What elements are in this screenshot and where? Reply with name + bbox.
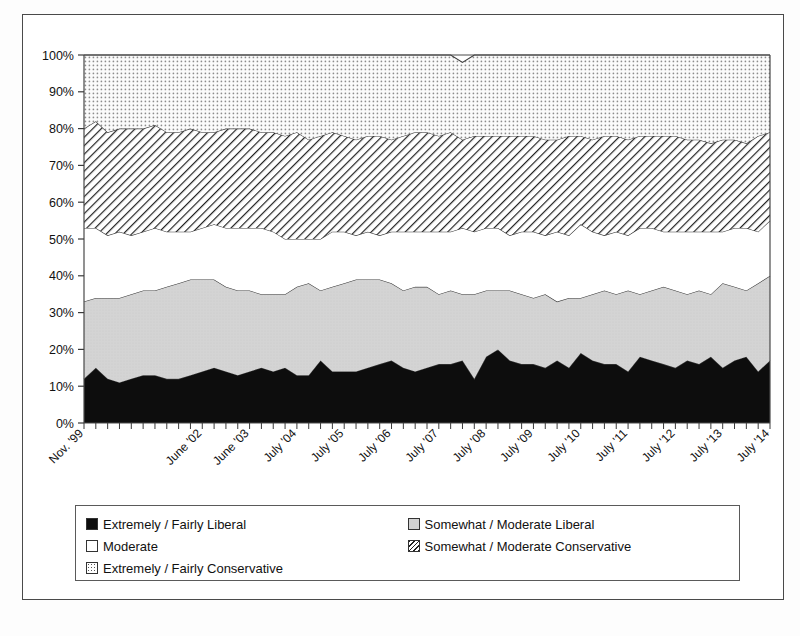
x-axis-tick-label: July '08 — [450, 426, 489, 465]
legend-swatch-icon — [408, 518, 420, 530]
x-axis-tick-label: July '12 — [639, 426, 678, 465]
y-axis-tick-label: 30% — [49, 306, 74, 320]
legend-entry[interactable]: Extremely / Fairly Conservative — [86, 557, 408, 579]
legend-swatch-icon — [86, 540, 98, 552]
x-axis-tick-label: July '09 — [497, 426, 536, 465]
area-series — [84, 121, 770, 239]
y-axis-tick-label: 100% — [42, 49, 74, 63]
y-axis-tick-label: 50% — [49, 233, 74, 247]
x-axis-tick-label: July '14 — [734, 426, 773, 465]
legend-entry[interactable]: Somewhat / Moderate Conservative — [408, 535, 730, 557]
x-axis-tick-label: July '10 — [544, 426, 583, 465]
legend-swatch-icon — [86, 518, 98, 530]
legend-label: Somewhat / Moderate Conservative — [425, 539, 632, 554]
x-axis-tick-label: June '02 — [163, 426, 205, 468]
legend-entry[interactable]: Extremely / Fairly Liberal — [86, 513, 408, 535]
x-axis-tick-label: Nov. '99 — [46, 426, 86, 466]
y-axis-tick-label: 90% — [49, 85, 74, 99]
y-axis-tick-label: 80% — [49, 122, 74, 136]
chart-figure: 0%10%20%30%40%50%60%70%80%90%100%Nov. '9… — [0, 0, 800, 636]
y-axis-tick-label: 60% — [49, 196, 74, 210]
legend-label: Somewhat / Moderate Liberal — [425, 517, 595, 532]
legend-label: Extremely / Fairly Conservative — [103, 561, 283, 576]
x-axis-tick-label: July '04 — [261, 426, 300, 465]
legend-swatch-icon — [86, 562, 98, 574]
legend-label: Extremely / Fairly Liberal — [103, 517, 246, 532]
y-axis-tick-label: 70% — [49, 159, 74, 173]
legend-swatch-icon — [408, 540, 420, 552]
x-axis-tick-label: July '07 — [403, 426, 442, 465]
y-axis-tick-label: 0% — [56, 417, 74, 431]
legend-label: Moderate — [103, 539, 158, 554]
x-axis-tick-label: July '13 — [686, 426, 725, 465]
legend-entry[interactable]: Moderate — [86, 535, 408, 557]
x-axis-tick-label: July '11 — [592, 426, 630, 464]
x-axis-tick-label: July '05 — [308, 426, 347, 465]
legend-entry[interactable]: Somewhat / Moderate Liberal — [408, 513, 730, 535]
x-axis-tick-label: June '03 — [210, 426, 252, 468]
chart-legend: Extremely / Fairly LiberalSomewhat / Mod… — [75, 505, 740, 581]
plot-area — [84, 55, 770, 423]
y-axis-tick-label: 20% — [49, 343, 74, 357]
y-axis-tick-label: 10% — [49, 380, 74, 394]
y-axis-tick-label: 40% — [49, 269, 74, 283]
x-axis-tick-label: July '06 — [355, 426, 394, 465]
